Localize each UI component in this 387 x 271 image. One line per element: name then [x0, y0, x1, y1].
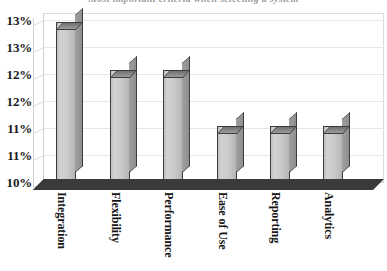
y-axis-tick-label: 13%: [0, 14, 32, 27]
bar-side-face: [289, 112, 297, 173]
bar-side-face: [342, 112, 350, 173]
y-axis-tick-label: 13%: [0, 41, 32, 54]
y-axis-tick-label: 11%: [0, 149, 32, 162]
gridline: [44, 74, 384, 75]
bar-side-face: [236, 112, 244, 173]
x-axis-tick-label: Analytics: [321, 192, 336, 271]
gridline: [44, 101, 384, 102]
bar[interactable]: [110, 70, 130, 180]
y-axis-tick-label: 11%: [0, 122, 32, 135]
y-axis-tick-label: 10%: [0, 176, 32, 189]
x-axis-tick-label: Integration: [54, 192, 69, 271]
bar-front-face: [110, 70, 130, 180]
bar-front-face: [56, 22, 76, 180]
bar-side-face: [75, 8, 83, 173]
bar[interactable]: [163, 70, 183, 180]
bar-chart: Most important criteria when selecting a…: [0, 0, 387, 271]
bar-front-face: [323, 126, 343, 180]
x-axis-tick-label: Performance: [161, 192, 176, 271]
x-axis-tick-label: Ease of Use: [215, 192, 230, 271]
bar[interactable]: [270, 126, 290, 180]
x-axis-tick-label: Flexibility: [108, 192, 123, 271]
gridline: [44, 20, 384, 21]
bar-front-face: [163, 70, 183, 180]
y-axis-tick-label: 12%: [0, 68, 32, 81]
bar-front-face: [217, 126, 237, 180]
bar-front-face: [270, 126, 290, 180]
x-axis-tick-label: Reporting: [268, 192, 283, 271]
bar[interactable]: [217, 126, 237, 180]
bar[interactable]: [56, 22, 76, 180]
axis-wall-edge: [33, 18, 34, 188]
bar[interactable]: [323, 126, 343, 180]
gridline: [44, 47, 384, 48]
y-axis-tick-label: 12%: [0, 95, 32, 108]
